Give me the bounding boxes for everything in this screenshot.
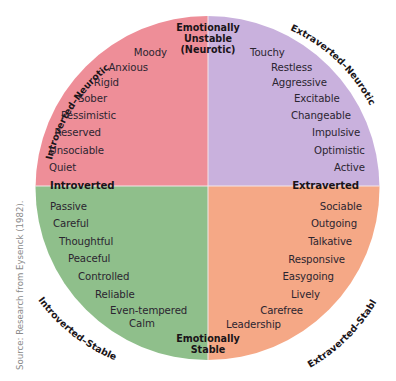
axis-top-line-3: (Neurotic) xyxy=(168,44,248,55)
trait-word: Thoughtful xyxy=(59,236,113,248)
trait-word: Sociable xyxy=(320,201,362,213)
trait-word: Controlled xyxy=(78,271,129,283)
trait-word: Reliable xyxy=(95,289,135,301)
axis-bottom-line-2: Stable xyxy=(168,344,248,355)
trait-word: Touchy xyxy=(250,47,285,59)
trait-word: Passive xyxy=(50,201,87,213)
trait-word: Leadership xyxy=(226,319,281,331)
axis-label-extraverted: Extraverted xyxy=(292,180,359,192)
trait-word: Lively xyxy=(291,289,320,301)
trait-word: Excitable xyxy=(294,93,340,105)
trait-word: Pessimistic xyxy=(61,110,116,122)
trait-word: Reserved xyxy=(54,127,101,139)
trait-word: Even-tempered xyxy=(110,305,187,317)
trait-word: Sober xyxy=(78,93,107,105)
axis-top-line-2: Unstable xyxy=(168,33,248,44)
axis-bottom-line-1: Emotionally xyxy=(168,333,248,344)
trait-word: Peaceful xyxy=(68,253,110,265)
trait-word: Moody xyxy=(134,47,167,59)
trait-word: Rigid xyxy=(94,77,119,89)
trait-word: Anxious xyxy=(108,62,148,74)
trait-word: Optimistic xyxy=(314,145,365,157)
axis-label-emotionally-unstable: Emotionally Unstable (Neurotic) xyxy=(168,22,248,55)
trait-word: Quiet xyxy=(49,162,76,174)
trait-word: Easygoing xyxy=(282,271,334,283)
axis-label-emotionally-stable: Emotionally Stable xyxy=(168,333,248,355)
personality-circle-diagram: Introverted–Neurotic Extraverted–Neuroti… xyxy=(0,0,396,381)
trait-word: Unsociable xyxy=(49,145,104,157)
trait-word: Calm xyxy=(129,318,155,330)
trait-word: Aggressive xyxy=(272,77,327,89)
source-citation: Source: Research from Eysenck (1982). xyxy=(15,201,25,371)
axis-label-introverted: Introverted xyxy=(50,180,114,192)
axis-top-line-1: Emotionally xyxy=(168,22,248,33)
trait-word: Talkative xyxy=(308,236,352,248)
trait-word: Active xyxy=(334,162,365,174)
trait-word: Changeable xyxy=(291,110,351,122)
trait-word: Carefree xyxy=(260,305,303,317)
trait-word: Responsive xyxy=(288,254,345,266)
trait-word: Impulsive xyxy=(312,127,360,139)
trait-word: Restless xyxy=(271,62,312,74)
trait-word: Careful xyxy=(53,218,89,230)
trait-word: Outgoing xyxy=(311,218,357,230)
